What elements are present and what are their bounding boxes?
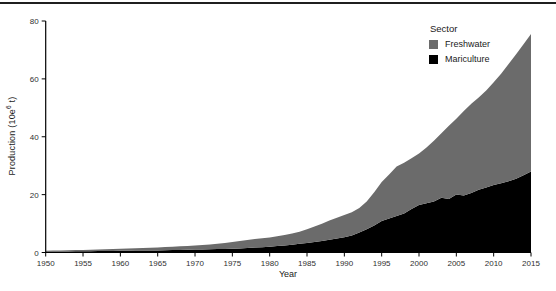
legend-item-mariculture: Mariculture xyxy=(429,54,490,64)
legend-title: Sector xyxy=(430,23,490,34)
y-tick-label: 0 xyxy=(34,249,39,258)
x-axis-title: Year xyxy=(279,269,297,279)
x-tick-label: 1995 xyxy=(373,259,391,268)
freshwater-swatch-icon xyxy=(429,40,438,49)
x-tick-label: 1965 xyxy=(149,259,167,268)
y-axis-title-suffix: t) xyxy=(7,97,17,106)
y-tick-label: 60 xyxy=(30,75,39,84)
mariculture-swatch-icon xyxy=(429,55,438,64)
x-tick-label: 1975 xyxy=(223,259,241,268)
x-tick-label: 2000 xyxy=(410,259,428,268)
legend: Sector Freshwater Mariculture xyxy=(429,23,490,69)
y-axis-title-superscript: 6 xyxy=(5,105,12,109)
y-tick-label: 80 xyxy=(30,17,39,26)
x-tick-label: 2015 xyxy=(522,259,540,268)
y-axis-title-text: Production (10e xyxy=(7,109,17,176)
y-tick-label: 20 xyxy=(30,191,39,200)
x-tick-label: 1970 xyxy=(186,259,204,268)
legend-label-freshwater: Freshwater xyxy=(445,39,490,49)
x-tick-label: 1950 xyxy=(37,259,55,268)
y-axis-title: Production (10e6 t) xyxy=(7,97,17,176)
y-tick-label: 40 xyxy=(30,133,39,142)
x-tick-label: 1960 xyxy=(111,259,129,268)
x-tick-label: 1955 xyxy=(74,259,92,268)
x-tick-label: 2010 xyxy=(485,259,503,268)
x-tick-label: 1985 xyxy=(298,259,316,268)
x-tick-label: 2005 xyxy=(447,259,465,268)
figure: 1950195519601965197019751980198519901995… xyxy=(0,0,556,291)
x-tick-label: 1990 xyxy=(335,259,353,268)
legend-label-mariculture: Mariculture xyxy=(445,54,490,64)
x-tick-label: 1980 xyxy=(261,259,279,268)
legend-item-freshwater: Freshwater xyxy=(429,39,490,49)
